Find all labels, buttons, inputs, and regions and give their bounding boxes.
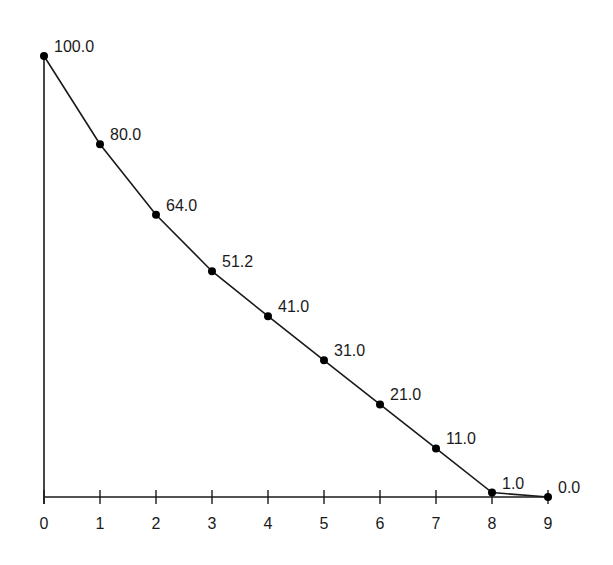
data-point-marker xyxy=(320,356,328,364)
data-label: 51.2 xyxy=(222,253,253,270)
x-tick-label: 3 xyxy=(208,515,217,532)
data-label: 80.0 xyxy=(110,126,141,143)
data-point-marker xyxy=(96,140,104,148)
x-tick-label: 0 xyxy=(40,515,49,532)
data-label: 1.0 xyxy=(502,475,524,492)
x-tick-label: 7 xyxy=(432,515,441,532)
data-label: 41.0 xyxy=(278,298,309,315)
x-tick-label: 6 xyxy=(376,515,385,532)
data-point-marker xyxy=(208,267,216,275)
data-label: 64.0 xyxy=(166,197,197,214)
data-label: 31.0 xyxy=(334,342,365,359)
data-label: 0.0 xyxy=(558,479,580,496)
data-point-marker xyxy=(544,493,552,501)
data-label: 21.0 xyxy=(390,386,421,403)
x-tick-label: 2 xyxy=(152,515,161,532)
x-tick-label: 1 xyxy=(96,515,105,532)
data-point-marker xyxy=(40,52,48,60)
data-label: 11.0 xyxy=(446,430,476,447)
data-labels: 100.080.064.051.241.031.021.011.01.00.0 xyxy=(54,38,580,496)
data-label: 100.0 xyxy=(54,38,94,55)
x-tick-label: 8 xyxy=(488,515,497,532)
line-chart: 0123456789 100.080.064.051.241.031.021.0… xyxy=(0,0,613,565)
data-point-marker xyxy=(488,489,496,497)
data-point-marker xyxy=(432,444,440,452)
x-tick-label: 4 xyxy=(264,515,273,532)
x-tick-label: 5 xyxy=(320,515,329,532)
data-point-marker xyxy=(264,312,272,320)
data-point-marker xyxy=(376,400,384,408)
data-point-marker xyxy=(152,211,160,219)
x-tick-label: 9 xyxy=(544,515,553,532)
